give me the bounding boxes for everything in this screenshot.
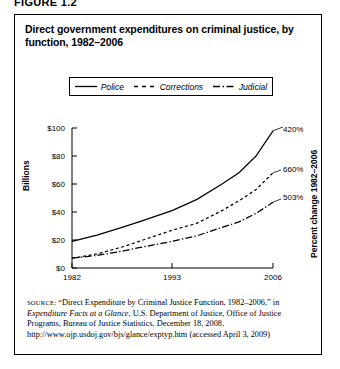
source-prefix: SOURCE: (27, 299, 56, 306)
source-italic-title: Expenditure Facts at a Glance (27, 309, 129, 318)
series-line-corrections (72, 173, 273, 258)
figure-panel: Direct government expenditures on crimin… (14, 14, 322, 355)
series-line-police (72, 131, 273, 242)
annotation-leaders (273, 127, 283, 202)
source-note: SOURCE: “Direct Expenditure by Criminal … (27, 298, 315, 340)
figure-label: FIGURE 1.2 (14, 0, 214, 10)
chart-axes (72, 128, 273, 268)
source-text-1: “Direct Expenditure by Criminal Justice … (56, 298, 279, 307)
